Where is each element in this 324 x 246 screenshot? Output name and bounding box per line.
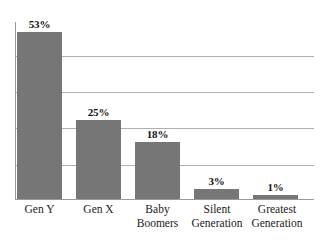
x-tick-label-greatest-generation-line2: Generation: [244, 217, 310, 231]
bar-gen-y[interactable]: [17, 32, 62, 199]
x-tick-label-silent-generation-line1: Silent: [185, 203, 249, 217]
bar-baby-boomers[interactable]: [135, 142, 180, 199]
x-tick-label-greatest-generation: Greatest Generation: [244, 203, 310, 230]
bar-chart: 53% 25% 18% 3% 1% Gen Y Gen X Baby Boome…: [0, 0, 324, 246]
x-tick-label-gen-y: Gen Y: [10, 203, 69, 217]
x-axis-tick-labels: Gen Y Gen X Baby Boomers Silent Generati…: [0, 203, 324, 246]
x-tick-label-gen-y-line1: Gen Y: [10, 203, 69, 217]
bars-layer: [0, 22, 324, 199]
bar-value-gen-x: 25%: [76, 106, 121, 118]
bar-value-gen-y: 53%: [17, 18, 62, 30]
x-tick-label-baby-boomers-line2: Boomers: [128, 217, 187, 231]
x-axis-line: [15, 199, 314, 200]
x-tick-label-silent-generation: Silent Generation: [185, 203, 249, 230]
bar-value-silent-generation: 3%: [194, 175, 239, 187]
bar-silent-generation[interactable]: [194, 189, 239, 199]
bar-value-baby-boomers: 18%: [135, 128, 180, 140]
bar-value-greatest-generation: 1%: [253, 181, 298, 193]
bar-greatest-generation[interactable]: [253, 195, 298, 199]
x-tick-label-gen-x: Gen X: [69, 203, 128, 217]
x-tick-label-baby-boomers: Baby Boomers: [128, 203, 187, 230]
x-tick-label-silent-generation-line2: Generation: [185, 217, 249, 231]
x-tick-label-greatest-generation-line1: Greatest: [244, 203, 310, 217]
x-tick-label-baby-boomers-line1: Baby: [128, 203, 187, 217]
bar-gen-x[interactable]: [76, 120, 121, 199]
x-tick-label-gen-x-line1: Gen X: [69, 203, 128, 217]
